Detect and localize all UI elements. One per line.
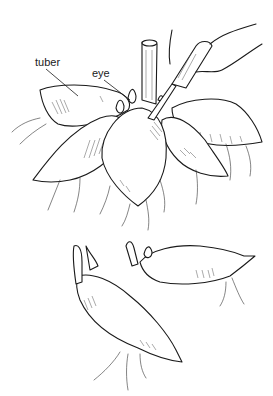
stem — [142, 40, 157, 104]
divided-tuber-upper — [126, 242, 255, 306]
tuber-cluster — [12, 24, 262, 230]
eye-label: eye — [92, 68, 110, 79]
illustration-canvas: tuber eye — [0, 0, 273, 396]
tuber-label: tuber — [35, 57, 60, 68]
hand — [169, 24, 262, 72]
